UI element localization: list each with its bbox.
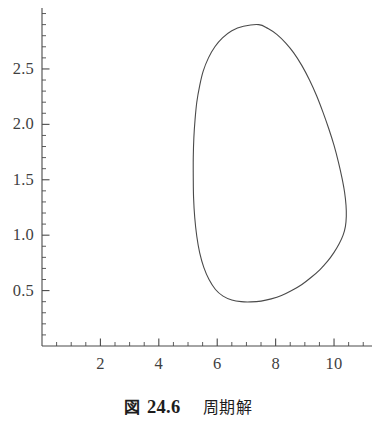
periodic-orbit-curve	[193, 25, 346, 302]
y-tick-label: 2.0	[13, 114, 34, 134]
y-tick-label: 0.5	[13, 281, 34, 301]
x-tick-label: 2	[96, 354, 104, 374]
figure-caption: 図24.6周期解	[0, 396, 376, 418]
figure-container: 0.51.01.52.02.5 246810 図24.6周期解	[0, 0, 376, 431]
y-tick-label: 2.5	[13, 59, 34, 79]
y-tick-label: 1.5	[13, 170, 34, 190]
x-tick-label: 6	[213, 354, 221, 374]
caption-title: 周期解	[203, 398, 253, 417]
caption-number: 24.6	[147, 397, 181, 417]
plot-area: 0.51.01.52.02.5 246810	[0, 0, 376, 390]
x-tick-label: 8	[271, 354, 279, 374]
caption-kind-label: 図	[124, 398, 140, 417]
curve-group	[193, 25, 346, 302]
x-tick-label: 4	[155, 354, 163, 374]
plot-svg	[0, 0, 376, 390]
x-tick-label: 10	[326, 354, 343, 374]
axis-group	[42, 8, 372, 346]
y-tick-label: 1.0	[13, 225, 34, 245]
